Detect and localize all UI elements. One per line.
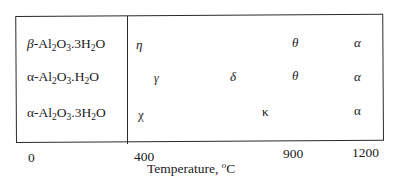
phase-delta: δ	[230, 69, 236, 85]
phase-chi: χ	[138, 107, 144, 123]
phase-theta: θ	[292, 68, 298, 84]
phase-alpha: α	[354, 35, 361, 51]
phase-kappa: κ	[262, 104, 269, 120]
phase-alpha: α	[354, 69, 361, 85]
label-divider	[127, 16, 128, 144]
x-axis-title: Temperature, oC	[147, 160, 235, 177]
tick-1200: 1200	[352, 145, 379, 161]
phase-gamma: γ	[154, 71, 159, 86]
phase-theta: θ	[292, 35, 298, 51]
tick-0: 0	[28, 150, 35, 166]
tick-900: 900	[283, 146, 303, 162]
row-label-beta-trihydrate: β-Al2O3.3H2O	[27, 36, 105, 53]
row-label-alpha-trihydrate: α-Al2O3.3H2O	[27, 105, 106, 122]
row-label-alpha-monohydrate: α-Al2O3.H2O	[27, 69, 99, 86]
phase-eta: η	[136, 37, 142, 53]
phase-alpha: α	[354, 103, 361, 119]
